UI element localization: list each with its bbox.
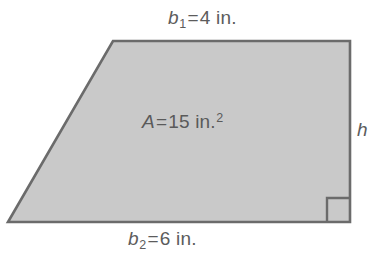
diagram-canvas: b1=4 in. A=15 in.2 b2=6 in. h — [0, 0, 384, 255]
bottom-base-variable: b — [128, 228, 139, 249]
area-equals: = — [155, 111, 168, 132]
area-label: A=15 in.2 — [142, 112, 224, 131]
top-base-variable: b — [168, 7, 179, 28]
top-base-equals: = — [186, 7, 199, 28]
top-base-label: b1=4 in. — [168, 8, 237, 31]
bottom-base-value: 6 in. — [160, 228, 197, 249]
area-value: 15 in. — [168, 111, 216, 132]
bottom-base-equals: = — [146, 228, 159, 249]
bottom-base-label: b2=6 in. — [128, 229, 197, 252]
area-superscript: 2 — [216, 111, 224, 125]
height-label: h — [357, 120, 368, 139]
area-variable: A — [142, 111, 155, 132]
top-base-value: 4 in. — [200, 7, 237, 28]
